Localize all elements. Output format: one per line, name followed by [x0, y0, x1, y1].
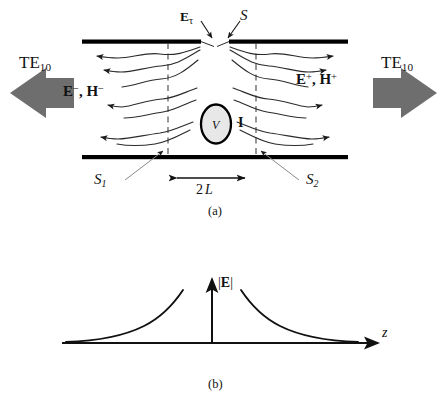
decay-curve-left — [66, 290, 183, 342]
te10-right-label: TE10 — [381, 54, 413, 73]
waveguide-bottom-wall — [82, 155, 348, 159]
backward-h-sign: − — [98, 83, 104, 94]
forward-h-symbol: H — [319, 71, 331, 87]
field-lines-left — [97, 47, 200, 146]
current-label: I — [238, 116, 243, 130]
surface-s1-label: S1 — [94, 172, 106, 189]
caption-panel-a: (a) — [208, 205, 222, 218]
abs-bar-close: | — [230, 275, 233, 290]
forward-e-symbol: E — [296, 71, 306, 87]
x-axis-label: z — [382, 326, 387, 340]
length-number: 2 — [196, 182, 203, 197]
te10-left-label-sub: 10 — [40, 61, 51, 73]
caption-panel-b: (b) — [208, 378, 223, 391]
forward-wave-label: E+, H+ — [296, 72, 337, 87]
y-axis-label: |E| — [218, 276, 233, 290]
aperture-field-label-base: E — [180, 9, 189, 24]
field-lines-right — [230, 47, 333, 146]
te10-left-label-base: TE — [19, 53, 40, 72]
decay-curve-right — [241, 290, 358, 342]
te10-right-label-base: TE — [381, 53, 402, 72]
figure-root: Eτ S TE10 TE10 E−, H− E+, H+ V I S1 S2 2… — [0, 0, 447, 404]
aperture-leader-lines — [201, 21, 240, 38]
te10-left-label: TE10 — [19, 54, 51, 73]
surface-s2-sub: 2 — [314, 178, 319, 189]
aperture-edges — [201, 42, 229, 47]
surface-s2-label: S2 — [306, 172, 318, 189]
aperture-field-label: Eτ — [180, 10, 193, 26]
aperture-field-label-sub: τ — [189, 15, 193, 26]
surface-s2-base: S — [306, 171, 314, 187]
te10-right-block-arrow — [373, 68, 437, 118]
e-field-symbol: E — [221, 275, 230, 290]
backward-e-symbol: E — [63, 83, 73, 99]
backward-h-symbol: H — [86, 83, 98, 99]
length-label: 2L — [196, 183, 213, 197]
aperture-surface-label: S — [240, 8, 248, 23]
backward-wave-label: E−, H− — [63, 84, 104, 99]
volume-label: V — [212, 119, 219, 131]
surface-s1-base: S — [94, 171, 102, 187]
te10-right-label-sub: 10 — [402, 61, 413, 73]
forward-h-sign: + — [331, 71, 337, 82]
length-symbol: L — [205, 182, 213, 197]
surface-s1-sub: 1 — [102, 178, 107, 189]
figure-canvas — [0, 0, 447, 404]
waveguide-top-wall — [82, 40, 348, 44]
